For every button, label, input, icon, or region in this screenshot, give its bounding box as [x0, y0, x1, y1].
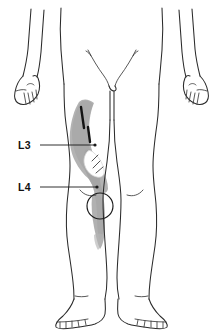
- foot-left-toe-5: [85, 320, 86, 325]
- foot-right-toe-5: [137, 320, 138, 325]
- leg-inner-right: [114, 120, 121, 299]
- arm-inner-right: [179, 10, 186, 77]
- leader-endpoint-l4: [95, 185, 98, 188]
- hand-left-finger-1: [24, 93, 26, 104]
- arm-outer-left: [23, 9, 31, 76]
- foot-left: [56, 299, 106, 329]
- body-outline-group: [15, 8, 209, 329]
- foot-right-toe-4: [144, 321, 145, 327]
- crotch-base: [109, 86, 116, 91]
- foot-right-toe-line: [135, 319, 166, 322]
- label-l4: L4: [18, 182, 31, 193]
- knee-crease-right: [127, 190, 143, 196]
- hand-right-finger-1: [197, 93, 199, 104]
- leader-endpoint-l3: [93, 143, 96, 146]
- anatomy-illustration: [0, 0, 223, 332]
- foot-right: [118, 299, 168, 329]
- leg-outer-left: [64, 84, 74, 299]
- arm-outer-right: [192, 9, 200, 76]
- hand-right-thumb: [197, 90, 207, 91]
- torso-edge-right: [159, 8, 163, 84]
- ankle-right: [135, 296, 148, 297]
- hand-left-knuckle: [27, 84, 34, 86]
- hand-left-finger-2: [28, 93, 30, 104]
- dermatome-shading-group: [70, 99, 108, 250]
- foot-left-toe-4: [78, 321, 79, 327]
- dermatome-shin-fade: [94, 234, 103, 251]
- torso-edge-left: [60, 8, 64, 84]
- hand-right-finger-2: [193, 93, 195, 104]
- arm-inner-left: [37, 10, 44, 77]
- ankle-left: [75, 296, 88, 297]
- hand-right-knuckle: [189, 84, 196, 86]
- foot-left-toe-line: [57, 319, 88, 322]
- hand-left-thumb: [16, 90, 26, 91]
- label-l3: L3: [18, 140, 31, 151]
- dermatome-figure: L3 L4: [0, 0, 223, 332]
- leg-outer-right: [149, 84, 159, 299]
